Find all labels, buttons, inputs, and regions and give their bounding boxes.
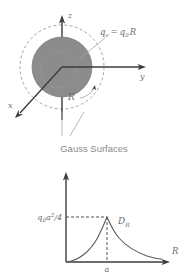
chart-peak-x-label: a — [105, 265, 110, 274]
radius-arrowhead — [91, 85, 96, 91]
charge-density-label: qv=q0R — [100, 27, 137, 38]
chart-peak-y-label: q0a2/4 — [37, 212, 62, 223]
gauss-surfaces-caption: Gauss Surfaces — [60, 143, 128, 154]
sphere-diagram: z y x R qv=q0R Gauss Surfaces — [8, 11, 146, 154]
peak-y-divider: /4 — [53, 213, 62, 222]
displacement-chart: R q0a2/4 a DR — [37, 172, 179, 274]
curve-label-symbol: D — [117, 216, 125, 226]
curve-label-subscript: R — [124, 221, 130, 228]
z-axis-label: z — [67, 11, 73, 20]
chart-x-axis-label: R — [171, 246, 179, 256]
x-axis-label: x — [8, 101, 13, 110]
displacement-curve — [66, 217, 162, 262]
caption-leader-outer — [70, 112, 84, 136]
chart-curve-label: DR — [117, 216, 130, 228]
y-axis-label: y — [139, 72, 145, 81]
svg-text:qv=q0R: qv=q0R — [100, 27, 137, 38]
sphere-radius-label: R — [67, 92, 75, 102]
charge-symbol-subscript: v — [105, 32, 109, 38]
charge-variable: R — [129, 27, 137, 37]
charge-equals: = — [111, 27, 118, 37]
charge-amplitude-subscript: 0 — [125, 32, 129, 38]
physics-figure: z y x R qv=q0R Gauss Surfaces — [0, 0, 189, 275]
